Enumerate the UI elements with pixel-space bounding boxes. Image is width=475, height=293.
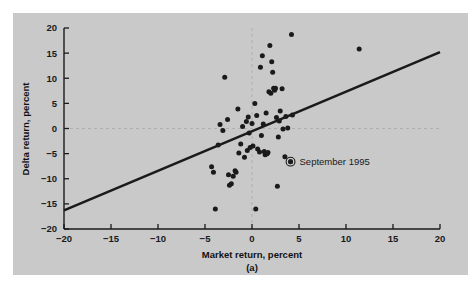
- data-point: [275, 184, 280, 189]
- x-tick-label: −15: [103, 233, 120, 244]
- x-tick-label: −20: [56, 233, 72, 244]
- data-point: [222, 75, 227, 80]
- figure-caption: (a): [246, 262, 258, 273]
- data-point: [270, 70, 275, 75]
- data-point: [276, 135, 281, 140]
- data-point: [277, 118, 282, 123]
- data-point: [213, 206, 218, 211]
- data-point: [290, 112, 295, 117]
- data-point: [236, 151, 241, 156]
- y-tick-label: −15: [41, 198, 58, 209]
- data-point: [278, 108, 283, 113]
- x-tick-label: 0: [249, 233, 254, 244]
- data-point: [226, 172, 231, 177]
- figure-container: −20−15−10−505101520−20−15−10−505101520 S…: [0, 0, 475, 293]
- scatter-chart: −20−15−10−505101520−20−15−10−505101520 S…: [0, 0, 475, 293]
- x-axis-title: Market return, percent: [202, 249, 303, 260]
- data-point: [285, 125, 290, 130]
- data-point: [216, 143, 221, 148]
- x-tick-label: −10: [150, 233, 166, 244]
- y-tick-label: −20: [41, 223, 57, 234]
- y-tick-label: 5: [52, 98, 58, 109]
- data-point: [235, 106, 240, 111]
- x-tick-label: 5: [296, 233, 302, 244]
- y-tick-label: 20: [46, 22, 57, 33]
- data-point: [283, 114, 288, 119]
- data-point: [231, 174, 236, 179]
- data-point: [258, 65, 263, 70]
- data-point: [289, 32, 294, 37]
- data-point: [281, 127, 286, 132]
- annotation-group: September 1995: [286, 156, 370, 167]
- data-point: [220, 128, 225, 133]
- data-point: [244, 119, 249, 124]
- data-point: [267, 43, 272, 48]
- x-tick-label: 15: [388, 233, 399, 244]
- data-point: [259, 133, 264, 138]
- data-point: [229, 181, 234, 186]
- data-points-group: [209, 32, 362, 211]
- data-point: [250, 144, 255, 149]
- y-tick-label: −5: [46, 148, 58, 159]
- data-point: [225, 117, 230, 122]
- y-tick-label: −10: [41, 173, 57, 184]
- data-point: [211, 170, 216, 175]
- data-point: [273, 86, 278, 91]
- data-point: [282, 154, 287, 159]
- highlighted-data-point: [288, 159, 293, 164]
- data-point: [253, 206, 258, 211]
- x-tick-label: −5: [200, 233, 212, 244]
- y-tick-label: 15: [46, 48, 57, 59]
- y-tick-label: 10: [46, 73, 57, 84]
- tick-labels-group: −20−15−10−505101520−20−15−10−505101520: [41, 22, 445, 244]
- data-point: [252, 101, 257, 106]
- data-point: [218, 122, 223, 127]
- data-point: [269, 59, 274, 64]
- data-point: [264, 110, 269, 115]
- data-point: [357, 47, 362, 52]
- data-point: [257, 150, 262, 155]
- x-tick-label: 10: [341, 233, 352, 244]
- annotation-label: September 1995: [300, 156, 370, 167]
- data-point: [250, 121, 255, 126]
- reference-lines-group: [64, 28, 440, 229]
- data-point: [240, 124, 245, 129]
- data-point: [265, 150, 270, 155]
- data-point: [260, 53, 265, 58]
- data-point: [254, 113, 259, 118]
- y-axis-title: Delta return, percent: [20, 82, 31, 176]
- data-point: [242, 155, 247, 160]
- data-point: [238, 142, 243, 147]
- data-point: [246, 114, 251, 119]
- y-tick-label: 0: [52, 123, 57, 134]
- data-point: [247, 131, 252, 136]
- data-point: [261, 121, 266, 126]
- x-tick-label: 20: [435, 233, 446, 244]
- data-point: [280, 86, 285, 91]
- data-point: [234, 170, 239, 175]
- data-point: [209, 164, 214, 169]
